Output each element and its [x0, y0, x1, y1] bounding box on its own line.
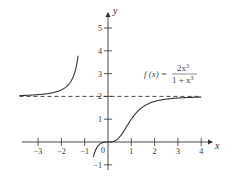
- function-plot: −3−2−11234 −112345 0 x y f (x) = 2x3 1 +…: [0, 0, 229, 178]
- y-axis-label: y: [112, 5, 118, 16]
- y-tick-label: 3: [98, 70, 102, 79]
- formula-numerator: 2x3: [177, 63, 189, 73]
- y-tick-label: 2: [98, 92, 102, 101]
- curve-left-branch: [19, 56, 78, 96]
- y-tick-label: 1: [98, 115, 102, 124]
- y-tick-label: −1: [93, 161, 102, 170]
- y-tick-label: 4: [98, 47, 102, 56]
- x-axis-label: x: [214, 140, 220, 151]
- formula-denominator: 1 + x3: [172, 75, 194, 85]
- formula-lhs: f (x) =: [144, 69, 167, 79]
- origin-label: 0: [101, 146, 105, 155]
- x-tick-label: 3: [176, 147, 180, 156]
- x-tick-label: −1: [80, 147, 89, 156]
- x-tick-label: 2: [153, 147, 157, 156]
- x-tick-label: 4: [199, 147, 203, 156]
- x-tick-label: 1: [129, 147, 133, 156]
- function-formula: f (x) = 2x3 1 + x3: [144, 63, 197, 85]
- x-tick-label: −3: [34, 147, 43, 156]
- y-tick-label: 5: [98, 24, 102, 33]
- curve-right-branch: [93, 97, 201, 157]
- axes: [22, 13, 212, 170]
- x-tick-label: −2: [57, 147, 66, 156]
- x-ticks: −3−2−11234: [34, 138, 203, 156]
